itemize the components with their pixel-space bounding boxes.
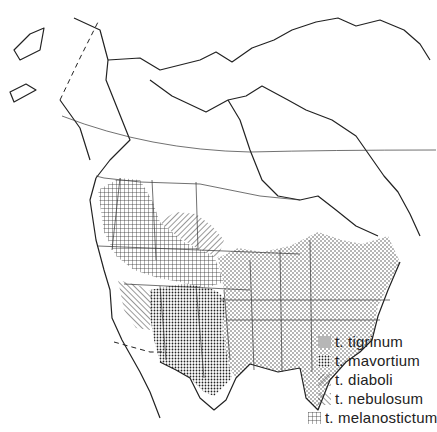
range-nebulosum	[118, 280, 152, 330]
swatch-grid-icon	[308, 412, 321, 424]
swatch-hatch-left-icon	[318, 393, 331, 405]
legend-item-mavortium: t. mavortium	[318, 351, 436, 370]
legend-item-melanostictum: t. melanostictum	[308, 408, 436, 427]
legend-label: t. melanostictum	[325, 409, 437, 426]
swatch-hatch-right-icon	[318, 374, 331, 386]
legend-label: t. tigrinum	[335, 333, 403, 350]
legend-item-nebulosum: t. nebulosum	[318, 389, 436, 408]
legend-item-tigrinum: t. tigrinum	[318, 332, 436, 351]
legend: t. tigrinum t. mavortium t. diaboli t. n…	[318, 332, 436, 427]
swatch-dots-icon	[318, 336, 331, 348]
legend-item-diaboli: t. diaboli	[318, 370, 436, 389]
swatch-dense-dots-icon	[318, 355, 331, 367]
legend-label: t. mavortium	[335, 352, 420, 369]
legend-label: t. nebulosum	[335, 390, 423, 407]
legend-label: t. diaboli	[335, 371, 393, 388]
